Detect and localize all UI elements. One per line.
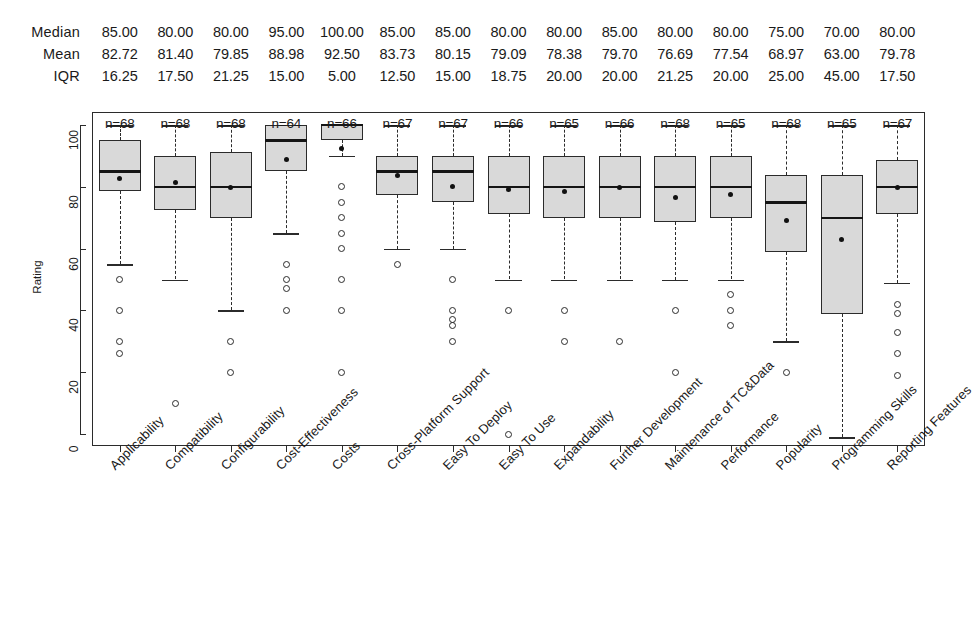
- whisker-lower-13: [842, 314, 843, 437]
- outlier-3-3: [283, 307, 290, 314]
- whisker-lower-9: [620, 218, 621, 280]
- median-line-12: [765, 201, 807, 204]
- mean-marker-11: [728, 192, 733, 197]
- whisker-lower-11: [731, 218, 732, 280]
- box-3: [265, 125, 307, 171]
- y-tick-label-40: 40: [67, 310, 81, 340]
- outlier-3-0: [283, 261, 290, 268]
- median-line-10: [654, 186, 696, 189]
- whisker-cap-lower-7: [495, 280, 521, 282]
- y-tick-label-20: 20: [67, 372, 81, 402]
- whisker-upper-12: [786, 125, 787, 175]
- box-13: [821, 175, 863, 314]
- median-line-3: [265, 139, 307, 142]
- y-tick-label-60: 60: [67, 249, 81, 279]
- mean-marker-1: [173, 180, 178, 185]
- median-line-1: [154, 186, 196, 189]
- outlier-10-0: [672, 307, 679, 314]
- whisker-lower-3: [286, 171, 287, 233]
- y-axis-title: Rating: [31, 260, 43, 293]
- outlier-14-1: [894, 310, 901, 317]
- whisker-lower-10: [675, 222, 676, 280]
- outlier-3-1: [283, 276, 290, 283]
- box-12: [765, 175, 807, 252]
- mean-marker-8: [562, 189, 567, 194]
- median-line-13: [821, 217, 863, 220]
- outlier-8-0: [561, 307, 568, 314]
- y-tick-label-80: 80: [67, 187, 81, 217]
- whisker-cap-lower-10: [662, 280, 688, 282]
- whisker-lower-8: [564, 218, 565, 280]
- mean-marker-13: [839, 237, 844, 242]
- whisker-cap-lower-8: [551, 280, 577, 282]
- outlier-1-0: [172, 400, 179, 407]
- mean-marker-10: [673, 195, 678, 200]
- whisker-cap-lower-0: [107, 264, 133, 266]
- whisker-cap-lower-13: [829, 437, 855, 439]
- whisker-cap-lower-11: [718, 280, 744, 282]
- whisker-lower-2: [231, 218, 232, 311]
- mean-marker-5: [395, 173, 400, 178]
- outlier-12-0: [783, 369, 790, 376]
- whisker-cap-lower-6: [440, 249, 466, 251]
- whisker-lower-6: [453, 202, 454, 248]
- outlier-11-1: [727, 307, 734, 314]
- outlier-14-2: [894, 329, 901, 336]
- box-10: [654, 156, 696, 222]
- outlier-7-0: [505, 307, 512, 314]
- outlier-14-0: [894, 301, 901, 308]
- whisker-cap-lower-12: [773, 341, 799, 343]
- median-line-0: [99, 170, 141, 173]
- whisker-lower-7: [509, 214, 510, 280]
- whisker-cap-lower-9: [607, 280, 633, 282]
- sample-size-label-14: n=67: [862, 116, 932, 131]
- y-tick-label-100: 100: [67, 125, 81, 155]
- whisker-cap-lower-14: [884, 283, 910, 285]
- outlier-7-1: [505, 431, 512, 438]
- whisker-cap-lower-4: [329, 156, 355, 158]
- outlier-8-1: [561, 338, 568, 345]
- median-line-8: [543, 186, 585, 189]
- outlier-9-0: [616, 338, 623, 345]
- whisker-lower-5: [397, 195, 398, 249]
- whisker-lower-14: [897, 214, 898, 283]
- whisker-cap-lower-3: [273, 233, 299, 235]
- median-line-11: [710, 186, 752, 189]
- outlier-2-1: [227, 369, 234, 376]
- whisker-cap-lower-2: [218, 310, 244, 312]
- outlier-10-1: [672, 369, 679, 376]
- box-6: [432, 156, 474, 202]
- y-tick-label-0: 0: [67, 434, 81, 464]
- whisker-cap-lower-1: [162, 280, 188, 282]
- whisker-lower-1: [175, 210, 176, 280]
- whisker-lower-12: [786, 252, 787, 341]
- whisker-lower-0: [120, 191, 121, 264]
- outlier-5-0: [394, 261, 401, 268]
- mean-marker-14: [895, 185, 900, 190]
- outlier-14-3: [894, 350, 901, 357]
- box-0: [99, 140, 141, 190]
- whisker-cap-lower-5: [384, 249, 410, 251]
- outlier-14-4: [894, 372, 901, 379]
- mean-marker-3: [284, 157, 289, 162]
- whisker-upper-13: [842, 125, 843, 175]
- median-line-6: [432, 170, 474, 173]
